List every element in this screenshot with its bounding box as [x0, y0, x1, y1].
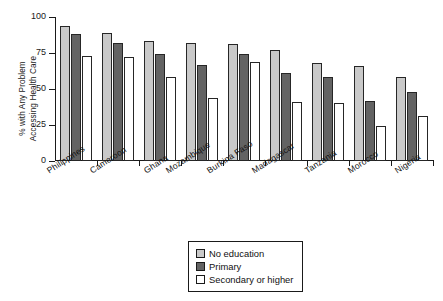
legend-label-secondary-or-higher: Secondary or higher	[209, 274, 293, 285]
bar-cameroon-no-education	[102, 33, 112, 161]
bar-philippines-primary	[71, 34, 81, 161]
bar-mozambique-secondary-or-higher	[208, 98, 218, 161]
plot-area	[55, 17, 433, 161]
x-tick-7	[391, 161, 392, 166]
legend-swatch-no-education	[196, 249, 205, 258]
chart-legend: No education Primary Secondary or higher	[188, 241, 303, 292]
bar-tanzania-no-education	[312, 63, 322, 161]
y-tick-label-0: 0	[0, 155, 46, 165]
legend-item-no-education: No education	[196, 247, 293, 260]
y-tick-label-75: 75	[0, 47, 46, 57]
legend-swatch-primary	[196, 262, 205, 271]
y-tick-label-25: 25	[0, 119, 46, 129]
bar-nigeria-primary	[407, 92, 417, 161]
bar-madagascar-no-education	[270, 50, 280, 161]
bar-morocco-no-education	[354, 66, 364, 161]
legend-label-no-education: No education	[209, 248, 264, 259]
bar-philippines-secondary-or-higher	[82, 56, 92, 161]
bar-cameroon-primary	[113, 43, 123, 161]
bar-burkina-faso-no-education	[228, 44, 238, 161]
bar-madagascar-secondary-or-higher	[292, 102, 302, 161]
bar-ghana-no-education	[144, 41, 154, 161]
bar-ghana-secondary-or-higher	[166, 77, 176, 161]
y-tick-label-100: 100	[0, 11, 46, 21]
bar-philippines-no-education	[60, 26, 70, 161]
bar-cameroon-secondary-or-higher	[124, 57, 134, 161]
y-tick-label-50: 50	[0, 83, 46, 93]
legend-swatch-secondary-or-higher	[196, 275, 205, 284]
legend-item-secondary-or-higher: Secondary or higher	[196, 273, 293, 286]
bar-ghana-primary	[155, 54, 165, 161]
bar-nigeria-secondary-or-higher	[418, 116, 428, 161]
bar-nigeria-no-education	[396, 77, 406, 161]
x-tick-1	[139, 161, 140, 166]
chart-figure: % with Any Problem Accessing Health Care…	[0, 0, 443, 301]
x-tick-8	[433, 161, 434, 166]
legend-label-primary: Primary	[209, 261, 241, 272]
bar-mozambique-no-education	[186, 43, 196, 161]
legend-item-primary: Primary	[196, 260, 293, 273]
